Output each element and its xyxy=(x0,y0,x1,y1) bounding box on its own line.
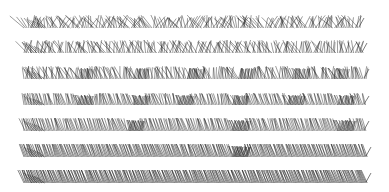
band-4-end-stroke xyxy=(364,96,369,104)
band-6-end-stroke xyxy=(366,147,371,156)
band-3-strokes xyxy=(22,66,368,79)
band-1 xyxy=(10,15,364,28)
band-7-strokes xyxy=(18,170,367,183)
band-6-strokes xyxy=(19,144,367,157)
band-5-end-stroke xyxy=(364,121,369,130)
band-4-strokes xyxy=(22,93,366,105)
band-7-end-stroke xyxy=(366,173,371,182)
band-2-strokes xyxy=(16,40,364,53)
hatch-bands-graphic xyxy=(0,0,389,192)
band-2 xyxy=(16,40,367,53)
band-4 xyxy=(22,93,369,105)
band-7 xyxy=(18,170,371,183)
band-6 xyxy=(19,144,371,157)
band-3 xyxy=(22,66,369,79)
band-5-strokes xyxy=(19,118,366,131)
stroke-pattern-canvas xyxy=(0,0,389,192)
band-1-strokes xyxy=(10,15,362,28)
band-5 xyxy=(19,118,369,131)
